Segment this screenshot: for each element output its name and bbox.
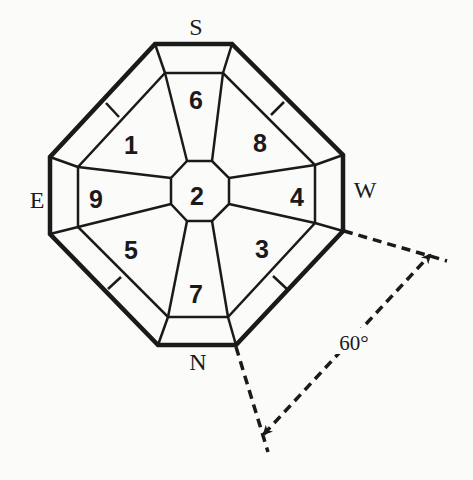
direction-label-east: E	[30, 187, 45, 213]
sector-number-left: 9	[89, 185, 103, 213]
direction-label-west: W	[354, 177, 377, 203]
sector-number-top-left: 1	[124, 131, 138, 159]
direction-label-north: N	[189, 349, 206, 375]
sector-number-top-right: 8	[253, 129, 267, 157]
sector-number-bottom-right: 3	[255, 235, 269, 263]
sector-number-center: 2	[190, 182, 204, 210]
bagua-diagram: S N E W 6 1 8 9 2 4 5 7 3 60°	[0, 0, 473, 480]
direction-label-south: S	[189, 14, 202, 40]
dashed-ray-upper	[344, 231, 447, 261]
angle-label: 60°	[339, 331, 368, 355]
sector-number-right: 4	[290, 183, 304, 211]
sector-number-top: 6	[189, 86, 203, 114]
dashed-ray-lower	[236, 347, 268, 452]
sector-number-bottom: 7	[189, 280, 203, 308]
sector-number-bottom-left: 5	[124, 236, 138, 264]
